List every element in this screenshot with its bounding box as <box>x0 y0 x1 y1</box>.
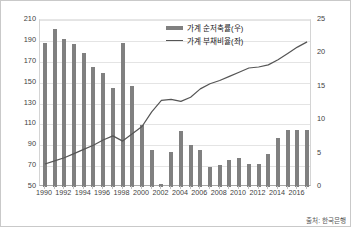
y-axis-left-tick: 90 <box>12 140 36 147</box>
y-axis-left-tick: 130 <box>12 99 36 106</box>
y-axis-right-tick: 15 <box>317 82 339 89</box>
legend-label-savings-rate: 가계 순저축률(우) <box>187 22 243 33</box>
legend-label-debt-ratio: 가계 부채비율(좌) <box>187 35 243 46</box>
y-axis-left-tick: 110 <box>12 119 36 126</box>
y-axis-right-tick: 25 <box>317 15 339 22</box>
y-axis-right-tick: 20 <box>317 48 339 55</box>
legend: 가계 순저축률(우) 가계 부채비율(좌) <box>166 21 243 47</box>
legend-item-savings-rate: 가계 순저축률(우) <box>166 21 243 34</box>
legend-line-swatch-icon <box>166 40 183 41</box>
y-axis-right-tick: 5 <box>317 149 339 156</box>
legend-item-debt-ratio: 가계 부채비율(좌) <box>166 34 243 47</box>
chart-frame: 507090110130150170190210 0510152025 1990… <box>0 0 351 227</box>
source-note: 출처: 한국은행 <box>306 215 346 225</box>
y-axis-left-tick: 210 <box>12 15 36 22</box>
y-axis-right-tick: 0 <box>317 182 339 189</box>
x-axis-tick-label: 2016 <box>283 189 309 197</box>
y-axis-left-tick: 190 <box>12 36 36 43</box>
y-axis-right-tick: 10 <box>317 115 339 122</box>
y-axis-left-tick: 70 <box>12 161 36 168</box>
y-axis-left-tick: 150 <box>12 78 36 85</box>
y-axis-left-tick: 170 <box>12 57 36 64</box>
legend-bar-swatch-icon <box>166 26 183 30</box>
